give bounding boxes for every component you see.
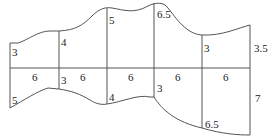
lower-height-0: 5 [12,94,18,106]
top-curve [10,3,250,43]
lower-height-4: 6.5 [205,118,219,130]
width-4: 6 [223,71,229,83]
upper-height-5: 3.5 [254,42,268,54]
upper-height-2: 5 [109,14,115,26]
width-0: 6 [32,71,38,83]
upper-height-3: 6.5 [157,8,171,20]
width-1: 6 [80,71,86,83]
lower-height-2: 4 [109,91,115,103]
strip-area-diagram: 3 4 5 6.5 3 3.5 6 6 6 6 6 5 3 4 3 6.5 7 [0,0,270,136]
upper-height-1: 4 [61,36,67,48]
width-3: 6 [175,71,181,83]
upper-height-4: 3 [204,42,210,54]
width-2: 6 [128,71,134,83]
upper-height-0: 3 [12,46,18,58]
lower-height-3: 3 [157,82,163,94]
lower-height-1: 3 [61,74,67,86]
lower-height-5: 7 [255,92,261,104]
